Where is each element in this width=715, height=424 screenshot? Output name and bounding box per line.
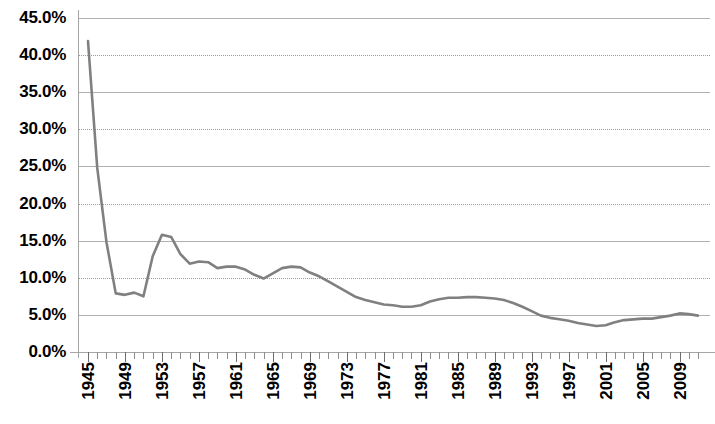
x-tick: [532, 352, 533, 362]
x-tick: [587, 352, 588, 359]
x-tick: [190, 352, 191, 359]
x-tick: [227, 352, 228, 359]
x-tick: [606, 352, 607, 362]
data-series-line: [78, 18, 710, 352]
x-axis-ticks: [0, 352, 715, 362]
x-tick: [430, 352, 431, 359]
x-tick-label: 1973: [338, 362, 358, 400]
y-axis: 45.0%40.0%35.0%30.0%25.0%20.0%15.0%10.0%…: [0, 0, 72, 360]
x-tick: [643, 352, 644, 362]
x-tick: [254, 352, 255, 359]
x-tick: [88, 352, 89, 362]
x-tick: [522, 352, 523, 359]
y-axis-line: [78, 10, 79, 358]
x-tick: [448, 352, 449, 359]
x-tick: [236, 352, 237, 362]
x-tick: [282, 352, 283, 359]
x-tick: [264, 352, 265, 359]
x-tick: [199, 352, 200, 362]
x-tick-label: 1989: [486, 362, 506, 400]
x-tick-label: 1977: [375, 362, 395, 400]
x-tick-label: 1957: [190, 362, 210, 400]
x-tick: [217, 352, 218, 359]
x-tick: [615, 352, 616, 359]
x-tick: [541, 352, 542, 359]
line-chart: 45.0%40.0%35.0%30.0%25.0%20.0%15.0%10.0%…: [0, 0, 715, 424]
x-tick: [143, 352, 144, 359]
x-tick: [116, 352, 117, 359]
x-tick: [680, 352, 681, 362]
x-tick: [153, 352, 154, 359]
x-tick: [208, 352, 209, 359]
x-tick: [689, 352, 690, 359]
x-tick: [134, 352, 135, 359]
x-tick: [652, 352, 653, 359]
y-tick-label: 5.0%: [28, 305, 66, 325]
x-tick: [291, 352, 292, 359]
y-tick-label: 45.0%: [19, 8, 66, 28]
x-tick: [375, 352, 376, 359]
x-tick: [245, 352, 246, 359]
x-tick: [698, 352, 699, 359]
x-tick: [504, 352, 505, 359]
x-tick: [661, 352, 662, 359]
y-tick-label: 10.0%: [19, 268, 66, 288]
x-tick-label: 1945: [79, 362, 99, 400]
plot-area: [78, 18, 710, 352]
x-tick: [495, 352, 496, 362]
y-tick-label: 20.0%: [19, 194, 66, 214]
x-tick: [467, 352, 468, 359]
x-tick: [559, 352, 560, 359]
x-tick: [106, 352, 107, 359]
x-tick: [180, 352, 181, 359]
series-polyline: [88, 41, 698, 326]
x-tick: [411, 352, 412, 359]
x-tick: [670, 352, 671, 359]
x-tick: [310, 352, 311, 362]
x-tick: [328, 352, 329, 359]
x-tick-label: 2009: [671, 362, 691, 400]
x-tick: [319, 352, 320, 359]
y-tick-label: 30.0%: [19, 119, 66, 139]
x-tick-label: 1969: [301, 362, 321, 400]
x-tick-label: 1997: [560, 362, 580, 400]
x-tick-label: 1965: [264, 362, 284, 400]
x-tick-label: 1985: [449, 362, 469, 400]
y-tick-label: 25.0%: [19, 156, 66, 176]
x-tick-label: 1981: [412, 362, 432, 400]
y-tick-label: 15.0%: [19, 231, 66, 251]
x-tick: [485, 352, 486, 359]
x-tick: [384, 352, 385, 362]
x-tick: [97, 352, 98, 359]
x-tick: [596, 352, 597, 359]
x-axis: 1945194919531957196119651969197319771981…: [0, 362, 715, 424]
x-tick: [421, 352, 422, 362]
x-tick: [365, 352, 366, 359]
y-tick-label: 40.0%: [19, 45, 66, 65]
y-tick-label: 35.0%: [19, 82, 66, 102]
x-tick: [513, 352, 514, 359]
x-tick: [356, 352, 357, 359]
x-tick: [338, 352, 339, 359]
x-tick: [162, 352, 163, 362]
x-tick: [633, 352, 634, 359]
x-tick: [301, 352, 302, 359]
x-tick-label: 2001: [597, 362, 617, 400]
x-tick: [550, 352, 551, 359]
x-tick: [569, 352, 570, 362]
x-tick: [347, 352, 348, 362]
x-tick: [624, 352, 625, 359]
x-tick-label: 1949: [116, 362, 136, 400]
x-tick: [171, 352, 172, 359]
x-tick: [125, 352, 126, 362]
x-tick: [393, 352, 394, 359]
x-tick-label: 1961: [227, 362, 247, 400]
x-tick: [439, 352, 440, 359]
x-tick-label: 2005: [634, 362, 654, 400]
x-tick-label: 1993: [523, 362, 543, 400]
x-tick: [476, 352, 477, 359]
x-tick-label: 1953: [153, 362, 173, 400]
x-tick: [578, 352, 579, 359]
x-tick: [458, 352, 459, 362]
x-tick: [402, 352, 403, 359]
